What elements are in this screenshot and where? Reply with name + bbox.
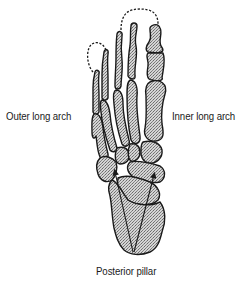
second-metatarsal bbox=[127, 80, 140, 143]
hallux-proximal-phalanx bbox=[147, 53, 164, 81]
second-toe-phalanges bbox=[128, 23, 137, 79]
medial-cuneiform bbox=[141, 141, 162, 163]
hallux-distal-phalanx bbox=[146, 25, 163, 53]
fourth-toe-phalanges bbox=[102, 50, 108, 101]
intermediate-cuneiform bbox=[128, 144, 140, 161]
inner-long-arch-label: Inner long arch bbox=[172, 110, 235, 122]
foot-skeleton-diagram bbox=[0, 0, 241, 287]
outer-long-arch-label: Outer long arch bbox=[6, 110, 71, 122]
first-metatarsal bbox=[145, 81, 166, 141]
posterior-pillar-label: Posterior pillar bbox=[96, 265, 156, 277]
lateral-cuneiform bbox=[115, 147, 129, 164]
foot-bones bbox=[92, 23, 166, 254]
third-toe-phalanges bbox=[115, 32, 122, 89]
cuboid bbox=[97, 157, 117, 182]
fifth-toe-phalanges bbox=[93, 70, 99, 114]
